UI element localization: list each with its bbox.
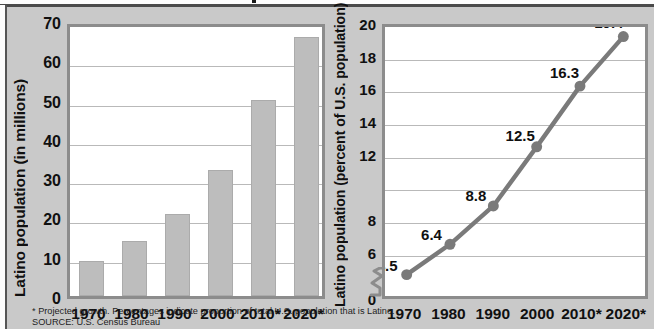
- y-tick-label: 0: [52, 291, 61, 307]
- x-tick-label: 1980: [431, 306, 465, 322]
- gridline: [70, 184, 322, 185]
- bar-chart-y-tick-labels: 010203040506070: [7, 24, 61, 299]
- line-chart-y-tick-labels: 0681214161820: [330, 24, 376, 299]
- bar: [294, 37, 318, 296]
- y-tick-label: 8: [368, 213, 376, 228]
- x-tick-label: 2010*: [561, 306, 602, 322]
- x-tick-label: 1990: [476, 306, 510, 322]
- y-tick-label: 30: [43, 173, 61, 189]
- bar: [251, 100, 275, 296]
- footnote-projection-note: * Projected growth. Percentages indicate…: [32, 306, 395, 317]
- y-tick-label: 20: [359, 17, 376, 32]
- gridline: [70, 223, 322, 224]
- bar-chart-plot-area: [67, 24, 325, 299]
- x-tick-label: 2020*: [606, 306, 647, 322]
- data-point-label: 16.3: [550, 65, 579, 80]
- y-tick-label: 70: [43, 16, 61, 32]
- bar: [165, 214, 189, 297]
- gridline: [70, 106, 322, 107]
- data-point-label: 8.8: [465, 187, 486, 202]
- line-chart-panel: Latino population (percent of U.S. popul…: [330, 7, 654, 329]
- y-tick-label: 16: [359, 82, 376, 97]
- gridline: [70, 66, 322, 67]
- data-point-label: 12.5: [506, 127, 535, 142]
- y-tick-label: 60: [43, 55, 61, 71]
- bar-chart-panel: Latino population (in millions) 01020304…: [7, 7, 330, 329]
- x-tick-label: 2000: [520, 306, 554, 322]
- data-point-label: 6.4: [421, 227, 442, 242]
- bar: [208, 170, 232, 296]
- y-tick-label: 10: [43, 252, 61, 268]
- y-tick-label: 50: [43, 95, 61, 111]
- bar: [122, 241, 146, 296]
- data-point-label: 4.5: [382, 258, 398, 273]
- y-tick-label: 12: [359, 147, 376, 162]
- y-tick-label: 6: [368, 245, 376, 260]
- line-chart-series: [385, 27, 645, 296]
- figure-container: Latino population (in millions) 01020304…: [0, 0, 654, 329]
- gridline: [70, 145, 322, 146]
- data-point-label: 19.4: [594, 24, 623, 29]
- footnote-source: SOURCE: U.S. Census Bureau: [32, 317, 160, 328]
- y-tick-label: 14: [359, 115, 376, 130]
- gridline: [70, 263, 322, 264]
- y-tick-label: 40: [43, 134, 61, 150]
- cropped-title-fragment: [252, 0, 256, 3]
- line-chart-plot-area: 4.56.48.812.516.319.4: [382, 24, 648, 299]
- y-tick-label: 18: [359, 49, 376, 64]
- y-tick-label: 20: [43, 212, 61, 228]
- bar: [79, 261, 103, 296]
